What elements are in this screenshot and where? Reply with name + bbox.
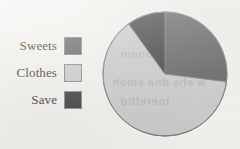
pie-chart-svg xyxy=(102,11,228,137)
pie-slice-sweets[interactable] xyxy=(165,12,227,82)
legend-swatch-save xyxy=(64,91,82,109)
chart-legend: Sweets Clothes Save xyxy=(0,33,82,114)
pie-chart xyxy=(102,11,228,137)
legend-swatch-sweets xyxy=(64,37,82,55)
legend-item-sweets[interactable]: Sweets xyxy=(0,33,82,58)
legend-label-sweets: Sweets xyxy=(20,39,64,52)
legend-item-save[interactable]: Save xyxy=(0,87,82,112)
legend-item-clothes[interactable]: Clothes xyxy=(0,60,82,85)
chart-page: Sweets Clothes Save ni yonom w ehs dna e… xyxy=(0,0,240,149)
legend-swatch-clothes xyxy=(64,64,82,82)
legend-label-clothes: Clothes xyxy=(17,66,64,79)
legend-label-save: Save xyxy=(31,93,64,106)
